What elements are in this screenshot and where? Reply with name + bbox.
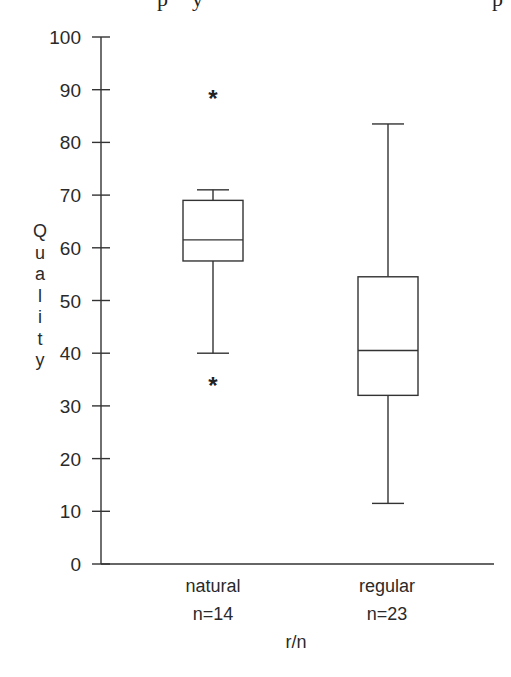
category-label-natural: natural (185, 576, 240, 596)
y-tick-label: 40 (60, 343, 81, 364)
cropped-text-fragment: p (157, 0, 168, 11)
y-axis-title-letter: t (37, 329, 42, 349)
y-tick-label: 100 (49, 27, 81, 48)
box-natural: ** (183, 85, 243, 399)
y-tick-label: 70 (60, 185, 81, 206)
outlier-marker: * (208, 85, 218, 112)
y-axis-title-letter: Q (33, 221, 47, 241)
x-axis-title: r/n (285, 632, 306, 652)
x-axis-category-labels: natural n=14 regular n=23 r/n (185, 576, 415, 652)
y-axis-title-letter: u (35, 243, 45, 263)
y-axis-title-letter: y (36, 350, 45, 370)
interquartile-box (358, 277, 418, 396)
category-label-regular: regular (359, 576, 415, 596)
y-tick-label: 60 (60, 238, 81, 259)
y-tick-label: 30 (60, 396, 81, 417)
cropped-text-fragment: p (492, 0, 503, 11)
box-plot-series: ** (183, 85, 418, 503)
sample-size-regular: n=23 (367, 604, 408, 624)
y-tick-label: 90 (60, 80, 81, 101)
y-tick-label: 20 (60, 449, 81, 470)
y-axis-title: Quality (33, 221, 47, 370)
axes: 0102030405060708090100 (49, 27, 494, 575)
cropped-text-fragment: y (192, 0, 203, 11)
y-axis-title-letter: l (38, 286, 42, 306)
box-regular (358, 124, 418, 503)
y-tick-label: 10 (60, 501, 81, 522)
cropped-header-text: p y p (157, 0, 503, 11)
y-tick-label: 80 (60, 132, 81, 153)
sample-size-natural: n=14 (193, 604, 234, 624)
y-tick-label: 50 (60, 291, 81, 312)
interquartile-box (183, 200, 243, 261)
y-axis-title-letter: i (38, 307, 42, 327)
outlier-marker: * (208, 372, 218, 399)
y-tick-label: 0 (70, 554, 81, 575)
box-plot-chart: p y p Quality 0102030405060708090100 ** … (0, 0, 511, 677)
y-axis-title-letter: a (35, 264, 46, 284)
